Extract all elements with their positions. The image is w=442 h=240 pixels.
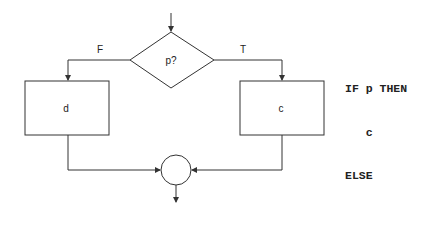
junction-circle [161,155,191,185]
true-branch-label: T [240,44,246,55]
false-merge-line [68,135,160,170]
false-box-label: d [63,103,69,114]
true-branch-line [214,60,282,80]
true-box-label: c [279,103,284,114]
pseudocode-block: IF p THEN c ELSE d ENDIF [345,53,407,212]
decision-label: p? [165,55,177,66]
true-merge-line [192,135,282,170]
false-branch-label: F [97,44,103,55]
code-line: c [345,126,407,141]
code-line: IF p THEN [345,82,407,97]
false-branch-line [68,60,130,80]
code-line: ELSE [345,169,407,184]
